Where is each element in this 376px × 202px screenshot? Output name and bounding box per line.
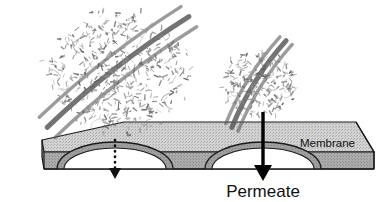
membrane-label: Membrane — [300, 137, 355, 149]
membrane-filtration-figure: Membrane Permeate — [0, 0, 376, 202]
figure-canvas: Membrane Permeate — [0, 0, 376, 202]
permeate-label: Permeate — [226, 182, 300, 201]
